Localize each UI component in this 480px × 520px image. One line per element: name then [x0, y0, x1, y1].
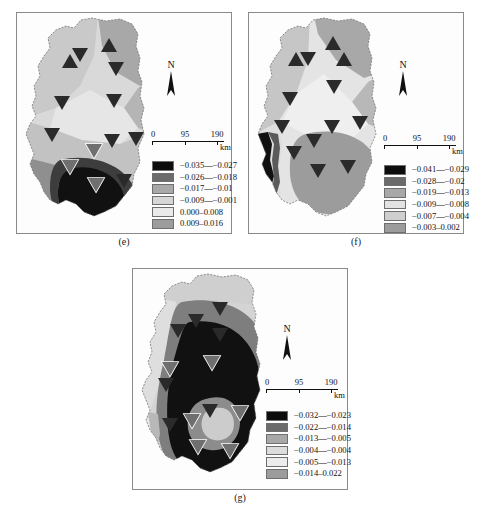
scale-tick-1: 95: [181, 130, 190, 139]
scale-tick-2: 190: [325, 378, 338, 387]
legend-label: −0.013—−0.005: [294, 434, 351, 443]
legend-swatch: [384, 223, 406, 233]
scale-bar: 0 95 190 km: [266, 378, 338, 396]
legend-row: −0.007—−0.004: [384, 210, 469, 222]
scale-bar: 0 95 190 km: [384, 134, 456, 152]
panel-f: N 0 95 190 km −0.041—−0.029: [248, 12, 464, 234]
legend-label: −0.019—−0.013: [412, 188, 469, 197]
legend-row: −0.019—−0.013: [384, 187, 469, 199]
legend-row: −0.004—−0.004: [266, 445, 351, 457]
legend-label: −0.032—−0.023: [294, 411, 351, 420]
legend-label: −0.009—−0.008: [412, 200, 469, 209]
north-arrow: N: [388, 60, 418, 97]
north-arrow-icon: [396, 71, 410, 97]
legend-swatch: [384, 177, 406, 187]
legend-swatch: [266, 411, 288, 421]
scale-bar: 0 95 190 km: [152, 130, 224, 148]
scale-tick-1: 95: [295, 378, 304, 387]
legend-row: 0.009–0.016: [152, 218, 237, 230]
panel-g-map: [136, 272, 278, 486]
legend-swatch: [266, 434, 288, 444]
panel-e-caption: (e): [16, 236, 232, 247]
north-arrow: N: [156, 60, 186, 97]
north-label: N: [156, 60, 186, 70]
legend-row: −0.022—−0.014: [266, 422, 351, 434]
legend-row: −0.013—−0.005: [266, 433, 351, 445]
panel-f-caption: (f): [248, 236, 464, 247]
north-label: N: [388, 60, 418, 70]
legend-label: −0.014–0.022: [294, 469, 342, 478]
legend-label: −0.009—−0.001: [180, 196, 237, 205]
legend-label: −0.028—−0.02: [412, 177, 465, 186]
panel-f-map: [252, 16, 394, 230]
scale-tick-1: 95: [413, 134, 422, 143]
panel-e: N 0 95 190 km −0.035—−0.027: [16, 12, 232, 234]
scale-unit: km: [220, 143, 231, 152]
legend-swatch: [384, 165, 406, 175]
north-arrow-icon: [280, 335, 294, 361]
legend-label: −0.003–0.002: [412, 223, 460, 232]
panel-g-caption: (g): [132, 492, 348, 503]
legend-swatch: [266, 446, 288, 456]
legend-label: −0.035—−0.027: [180, 161, 237, 170]
legend-panel-f: −0.041—−0.029 −0.028—−0.02 −0.019—−0.013…: [384, 164, 469, 234]
legend-swatch: [384, 188, 406, 198]
legend-row: −0.028—−0.02: [384, 176, 469, 188]
legend-label: −0.005—−0.013: [294, 458, 351, 467]
legend-swatch: [266, 423, 288, 433]
scale-unit: km: [334, 391, 345, 400]
legend-panel-g: −0.032—−0.023 −0.022—−0.014 −0.013—−0.00…: [266, 410, 351, 480]
north-arrow-icon: [164, 71, 178, 97]
legend-label: 0.009–0.016: [180, 219, 223, 228]
north-arrow: N: [272, 324, 302, 361]
legend-swatch: [384, 200, 406, 210]
panel-e-map: [20, 16, 162, 230]
legend-row: −0.003–0.002: [384, 222, 469, 234]
legend-label: −0.017—−0.01: [180, 184, 233, 193]
scale-tick-0: 0: [151, 130, 155, 139]
legend-label: −0.026—−0.018: [180, 173, 237, 182]
scale-tick-0: 0: [265, 378, 269, 387]
legend-row: −0.005—−0.013: [266, 456, 351, 468]
legend-label: 0.000–0.008: [180, 208, 223, 217]
legend-panel-e: −0.035—−0.027 −0.026—−0.018 −0.017—−0.01…: [152, 160, 237, 230]
legend-label: −0.007—−0.004: [412, 212, 469, 221]
panel-g: N 0 95 190 km −0.032—−0.023: [132, 268, 348, 490]
legend-swatch: [266, 457, 288, 467]
scale-unit: km: [452, 147, 463, 156]
legend-row: −0.035—−0.027: [152, 160, 237, 172]
scale-tick-2: 190: [443, 134, 456, 143]
legend-swatch: [152, 196, 174, 206]
legend-swatch: [152, 207, 174, 217]
legend-row: −0.014–0.022: [266, 468, 351, 480]
legend-swatch: [152, 184, 174, 194]
legend-row: −0.026—−0.018: [152, 172, 237, 184]
north-label: N: [272, 324, 302, 334]
legend-row: 0.000–0.008: [152, 206, 237, 218]
legend-row: −0.009—−0.001: [152, 195, 237, 207]
legend-row: −0.017—−0.01: [152, 183, 237, 195]
scale-tick-0: 0: [383, 134, 387, 143]
legend-label: −0.004—−0.004: [294, 446, 351, 455]
legend-swatch: [152, 161, 174, 171]
figure-maps-panels: N 0 95 190 km −0.035—−0.027: [0, 0, 480, 520]
legend-swatch: [152, 219, 174, 229]
legend-row: −0.009—−0.008: [384, 199, 469, 211]
legend-row: −0.041—−0.029: [384, 164, 469, 176]
scale-tick-2: 190: [211, 130, 224, 139]
legend-label: −0.022—−0.014: [294, 423, 351, 432]
legend-swatch: [266, 469, 288, 479]
legend-swatch: [384, 211, 406, 221]
legend-row: −0.032—−0.023: [266, 410, 351, 422]
legend-swatch: [152, 173, 174, 183]
legend-label: −0.041—−0.029: [412, 165, 469, 174]
